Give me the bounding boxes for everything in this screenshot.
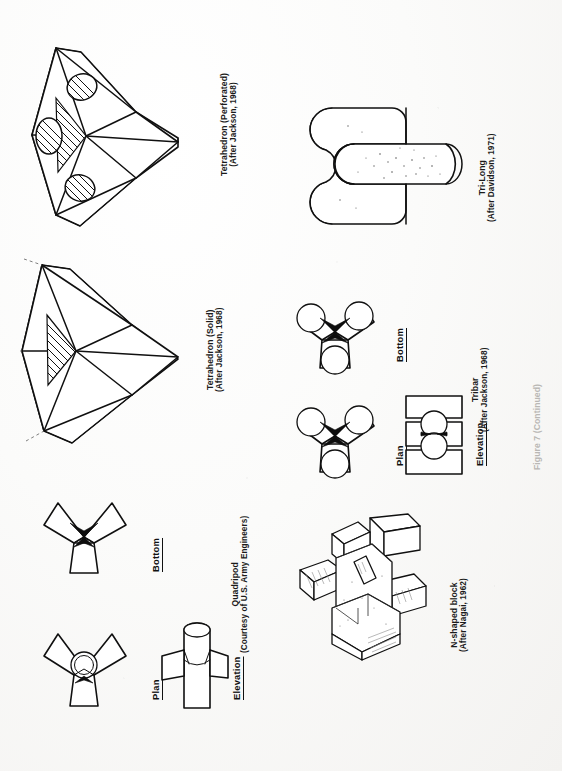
caption-title: Quadripod (230, 516, 240, 653)
tetrahedron-solid-svg (20, 255, 190, 445)
figure-quadripod-elevation-view (158, 620, 230, 716)
tribar-bottom-svg (292, 288, 378, 376)
figure-tetrahedron-perforated-drawing (18, 40, 193, 230)
tribar-elevation-svg (400, 390, 468, 480)
label-quadripod-bottom: Bottom (150, 538, 161, 572)
figure-tribar-bottom-view (292, 288, 378, 376)
quadripod-bottom-svg (40, 497, 130, 577)
caption-credit: (After Jackson, 1968) (215, 308, 225, 392)
quadripod-plan-svg (40, 628, 130, 710)
caption-tetrahedron-solid: Tetrahedron (Solid) (After Jackson, 1968… (205, 308, 225, 392)
figure-caption-text: Figure 7 (Continued) (532, 384, 542, 470)
n-shaped-block-svg (296, 512, 428, 664)
caption-tetrahedron-perforated: Tetrahedron (Perforated) (After Jackson,… (219, 73, 239, 176)
caption-title: Tetrahedron (Perforated) (219, 73, 229, 176)
figure-quadripod-bottom-view (40, 497, 130, 577)
figure-tribar-plan-view (292, 392, 378, 480)
figure-footer-caption: Figure 7 (Continued) (532, 384, 542, 470)
label-quadripod-elevation: Elevation (231, 657, 242, 700)
caption-title: Tribar (470, 348, 480, 432)
caption-credit: (After Davidson, 1971) (487, 133, 497, 222)
figure-tribar-elevation-view (400, 390, 468, 480)
caption-quadripod: Quadripod (Courtesy of U.S. Army Enginee… (230, 516, 250, 653)
document-page: Tetrahedron (Perforated) (After Jackson,… (0, 0, 562, 771)
caption-credit: (Courtesy of U.S. Army Engineers) (240, 516, 250, 653)
tetrahedron-perforated-svg (18, 40, 193, 230)
caption-title: N-shaped block (449, 578, 459, 652)
figure-tetrahedron-solid-drawing (20, 255, 190, 445)
caption-tri-long: Tri-Long (After Davidson, 1971) (477, 133, 497, 222)
figure-quadripod-plan-view (40, 628, 130, 710)
caption-n-shaped-block: N-shaped block (After Nagai, 1962) (449, 578, 469, 652)
tribar-plan-svg (292, 392, 378, 480)
caption-credit: (After Jackson, 1968) (480, 348, 490, 432)
caption-credit: (After Jackson, 1968) (229, 73, 239, 176)
caption-title: Tri-Long (477, 133, 487, 222)
figure-n-shaped-block-drawing (296, 512, 428, 664)
label-tribar-bottom: Bottom (394, 328, 405, 362)
caption-tribar: Tribar (After Jackson, 1968) (470, 348, 490, 432)
caption-credit: (After Nagai, 1962) (459, 578, 469, 652)
quadripod-elevation-svg (158, 620, 230, 716)
caption-title: Tetrahedron (Solid) (205, 308, 215, 392)
tri-long-svg (296, 92, 461, 242)
figure-tri-long-drawing (296, 92, 461, 242)
